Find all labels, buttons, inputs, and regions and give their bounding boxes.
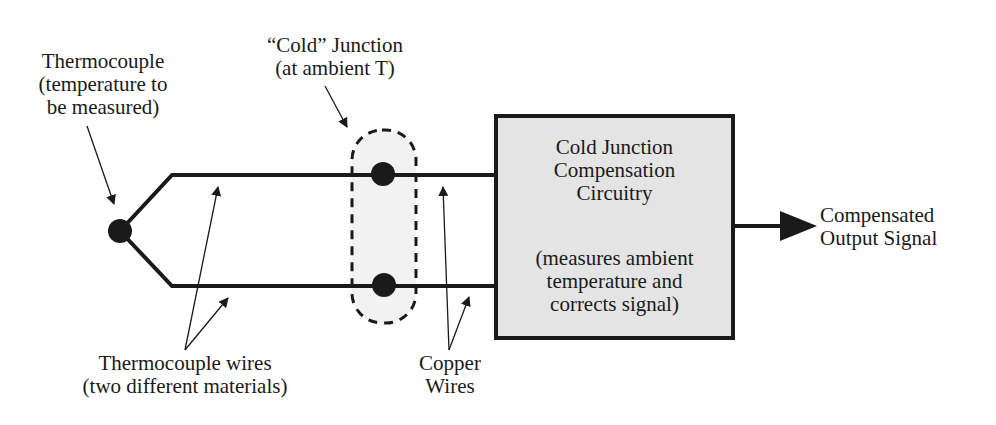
label-line: (measures ambient [496, 247, 733, 270]
label-line: (two different materials) [40, 375, 330, 398]
top-wire [120, 175, 496, 231]
label-line: Compensation [496, 159, 733, 182]
cold-junction-label: “Cold” Junction (at ambient T) [240, 34, 430, 80]
label-line: (at ambient T) [240, 57, 430, 80]
thermocouple-wires-label: Thermocouple wires (two different materi… [40, 352, 330, 398]
label-line: Thermocouple [18, 50, 188, 73]
cold-junction-pointer [325, 86, 347, 127]
label-line: corrects signal) [496, 293, 733, 316]
label-line: “Cold” Junction [240, 34, 430, 57]
copper-pointer-top [443, 187, 449, 350]
bottom-wire [120, 231, 496, 286]
label-line: Compensated [820, 204, 937, 227]
label-line: Cold Junction [496, 136, 733, 159]
cold-junction-dot-top [371, 162, 395, 186]
cold-junction-dot-bottom [372, 273, 396, 297]
label-line: Output Signal [820, 227, 937, 250]
thermocouple-label: Thermocouple (temperature to be measured… [18, 50, 188, 119]
box-description: (measures ambient temperature and correc… [496, 247, 733, 316]
label-line: (temperature to [18, 73, 188, 96]
label-line: Circuitry [496, 182, 733, 205]
thermocouple-pointer [87, 126, 114, 204]
output-label: Compensated Output Signal [820, 204, 937, 250]
label-line: Thermocouple wires [40, 352, 330, 375]
copper-wires-label: Copper Wires [400, 352, 500, 398]
label-line: Copper [400, 352, 500, 375]
tc-wire-pointer-bottom [185, 298, 228, 350]
label-line: temperature and [496, 270, 733, 293]
label-line: Wires [400, 375, 500, 398]
output-arrowhead-icon [780, 211, 817, 241]
tc-wire-pointer-top [185, 187, 218, 350]
copper-pointer-bottom [449, 297, 469, 350]
box-title: Cold Junction Compensation Circuitry [496, 136, 733, 205]
label-line: be measured) [18, 96, 188, 119]
thermocouple-junction-dot [108, 219, 132, 243]
